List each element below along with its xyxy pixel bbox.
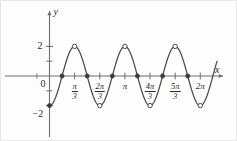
graph-canvas <box>1 1 237 141</box>
trig-graph-figure: y x 0 2 −2 π32π3π4π35π32π <box>0 0 237 141</box>
filled-dot-3 <box>135 74 139 78</box>
open-circle-2 <box>123 44 127 48</box>
filled-dot-4 <box>161 74 165 78</box>
y-axis-arrowhead <box>47 11 51 15</box>
fraction-denominator: 3 <box>95 92 106 101</box>
open-circle-3 <box>148 103 152 107</box>
x-tick-label-1: 2π3 <box>95 82 106 101</box>
origin-label: 0 <box>41 79 46 89</box>
filled-dot-1 <box>85 74 89 78</box>
x-tick-label-2: π <box>123 82 128 91</box>
open-circle-0 <box>72 44 76 48</box>
x-tick-label-0: π3 <box>71 82 77 101</box>
fraction: 2π3 <box>95 82 106 101</box>
fraction: 5π3 <box>170 82 181 101</box>
filled-dot-6 <box>47 104 51 108</box>
x-tick-label-3: 4π3 <box>145 82 156 101</box>
filled-dot-2 <box>110 74 114 78</box>
x-axis-label: x <box>215 65 219 75</box>
y-tick-label-negative-2: −2 <box>33 109 44 119</box>
filled-dot-5 <box>186 74 190 78</box>
fraction-denominator: 3 <box>145 92 156 101</box>
fraction: π3 <box>71 82 77 101</box>
y-tick-label-2: 2 <box>38 41 43 51</box>
tick-text: 2π <box>196 81 205 91</box>
x-tick-label-5: 2π <box>196 82 205 91</box>
fraction-denominator: 3 <box>170 92 181 101</box>
tick-text: π <box>123 81 128 91</box>
fraction: 4π3 <box>145 82 156 101</box>
fraction-denominator: 3 <box>71 92 77 101</box>
y-axis-label: y <box>54 7 58 17</box>
filled-dot-0 <box>60 74 64 78</box>
open-circle-1 <box>98 103 102 107</box>
open-circle-5 <box>198 103 202 107</box>
open-circle-4 <box>173 44 177 48</box>
x-tick-label-4: 5π3 <box>170 82 181 101</box>
